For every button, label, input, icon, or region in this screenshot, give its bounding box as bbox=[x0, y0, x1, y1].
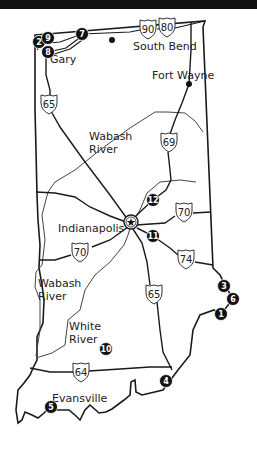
marker-number: 5 bbox=[48, 403, 54, 412]
marker-number: 9 bbox=[45, 34, 51, 43]
marker-number: 1 bbox=[218, 310, 224, 319]
city-label: South Bend bbox=[133, 40, 197, 53]
us-road-west bbox=[36, 192, 126, 222]
river-label: Wabash bbox=[38, 277, 81, 290]
location-marker-4[interactable]: 4 bbox=[160, 375, 173, 388]
marker-number: 12 bbox=[147, 196, 158, 205]
location-marker-5[interactable]: 5 bbox=[45, 401, 58, 414]
white-river-line bbox=[36, 180, 196, 358]
river-label: River bbox=[38, 290, 67, 303]
marker-number: 2 bbox=[36, 38, 42, 47]
river-label: Wabash bbox=[89, 130, 132, 143]
location-marker-10[interactable]: 10 bbox=[100, 343, 113, 356]
interstate-shield-70: 70 bbox=[72, 243, 88, 262]
i70-east-road bbox=[136, 212, 211, 225]
marker-number: 11 bbox=[147, 232, 159, 241]
interstate-shield-69: 69 bbox=[161, 133, 177, 152]
i64-road bbox=[30, 367, 172, 372]
river-label: White bbox=[69, 320, 101, 333]
south-bend-dot[interactable] bbox=[109, 37, 115, 43]
interstate-number: 74 bbox=[180, 254, 193, 265]
location-marker-1[interactable]: 1 bbox=[215, 308, 228, 321]
marker-number: 10 bbox=[100, 345, 112, 354]
location-marker-12[interactable]: 12 bbox=[147, 194, 160, 207]
indiana-map: ★ South BendGaryFort WayneIndianapolisEv… bbox=[0, 0, 257, 450]
city-label: Indianapolis bbox=[58, 222, 125, 235]
city-label: Evansville bbox=[52, 392, 108, 405]
interstate-shield-65: 65 bbox=[146, 285, 162, 304]
interstate-number: 70 bbox=[74, 247, 87, 258]
location-marker-9[interactable]: 9 bbox=[42, 32, 55, 45]
interstate-number: 70 bbox=[178, 207, 191, 218]
river-label: River bbox=[69, 333, 98, 346]
location-marker-8[interactable]: 8 bbox=[42, 46, 55, 59]
interstate-number: 65 bbox=[148, 289, 161, 300]
location-marker-3[interactable]: 3 bbox=[218, 280, 231, 293]
interstate-shield-80: 80 bbox=[159, 18, 175, 37]
river-label: River bbox=[89, 143, 118, 156]
city-label: Fort Wayne bbox=[152, 69, 214, 82]
marker-number: 8 bbox=[45, 48, 51, 57]
marker-number: 4 bbox=[163, 377, 169, 386]
interstate-number: 64 bbox=[75, 367, 88, 378]
interstate-number: 90 bbox=[142, 24, 155, 35]
location-marker-6[interactable]: 6 bbox=[227, 293, 240, 306]
location-marker-7[interactable]: 7 bbox=[76, 28, 89, 41]
marker-number: 3 bbox=[221, 282, 227, 291]
interstate-shield-70: 70 bbox=[176, 203, 192, 222]
marker-number: 6 bbox=[230, 295, 236, 304]
interstate-number: 65 bbox=[43, 99, 56, 110]
interstate-shield-65: 65 bbox=[41, 95, 57, 114]
star-icon: ★ bbox=[126, 216, 136, 229]
interstate-shield-64: 64 bbox=[73, 363, 89, 382]
capital-indianapolis[interactable]: ★ bbox=[124, 215, 138, 229]
marker-number: 7 bbox=[79, 30, 85, 39]
interstate-number: 69 bbox=[163, 137, 176, 148]
interstate-number: 80 bbox=[161, 22, 174, 33]
interstate-shield-74: 74 bbox=[178, 250, 194, 269]
location-marker-11[interactable]: 11 bbox=[147, 230, 160, 243]
interstate-shield-90: 90 bbox=[140, 20, 156, 39]
